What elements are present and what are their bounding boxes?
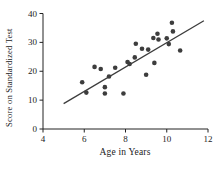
data-point	[146, 47, 151, 52]
x-tick-label: 4	[41, 134, 46, 144]
data-point	[127, 62, 132, 67]
y-tick-label: 10	[28, 95, 38, 105]
data-point	[103, 85, 108, 90]
data-point	[152, 61, 157, 66]
data-point	[103, 91, 108, 96]
x-axis-title: Age in Years	[99, 147, 150, 157]
y-axis-title: Score on Standardized Test	[4, 28, 14, 127]
data-point	[113, 65, 118, 70]
data-point	[121, 91, 126, 96]
data-point	[171, 29, 176, 34]
x-tick-label: 10	[162, 134, 172, 144]
data-point	[92, 65, 97, 70]
y-tick-label: 30	[28, 37, 38, 47]
data-point	[84, 90, 89, 95]
x-tick-label: 8	[123, 134, 128, 144]
data-point	[132, 55, 137, 60]
x-tick-label: 12	[204, 134, 213, 144]
screenshot-root: 4681012010203040 Score on Standardized T…	[0, 0, 222, 173]
data-point	[164, 36, 169, 41]
data-point	[178, 48, 183, 53]
scatter-chart: 4681012010203040 Score on Standardized T…	[0, 0, 222, 173]
data-point	[107, 74, 112, 79]
data-point	[151, 36, 156, 41]
y-tick-label: 0	[33, 124, 38, 134]
data-point	[98, 67, 103, 72]
data-point	[170, 20, 175, 25]
axes-spines	[43, 14, 208, 130]
data-point	[155, 31, 160, 36]
data-point	[156, 37, 161, 42]
data-point	[140, 46, 145, 51]
data-point	[144, 72, 149, 77]
x-tick-label: 6	[82, 134, 87, 144]
data-point	[80, 80, 85, 85]
data-point	[134, 42, 139, 47]
y-tick-label: 20	[28, 66, 38, 76]
data-point	[167, 42, 172, 47]
y-tick-label: 40	[28, 9, 38, 19]
